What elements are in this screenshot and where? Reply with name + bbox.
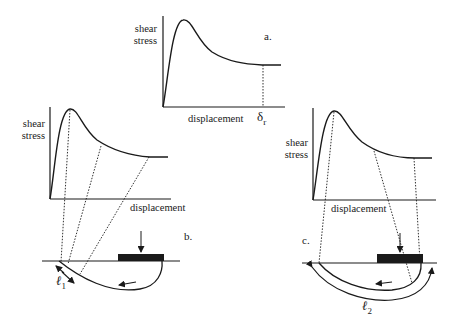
panel-c-projection-residual [414, 158, 420, 262]
diagram-canvas [0, 0, 459, 327]
panel-a-ylabel-line1: shear [117, 23, 157, 35]
panel-c-length-double-arrow [312, 267, 432, 300]
panel-b-length-arrow-up [56, 266, 64, 273]
panel-c-projection-peak [319, 112, 334, 263]
panel-c-ylabel: shear stress [268, 137, 308, 161]
ell-subscript: 1 [61, 281, 66, 291]
panel-c-ylabel-line1: shear [268, 137, 308, 149]
panel-c-stress-curve [313, 111, 432, 200]
panel-a-ylabel: shear stress [117, 23, 157, 47]
panel-a-xlabel: displacement [188, 113, 243, 125]
panel-c-tag: c. [302, 234, 310, 246]
panel-b-length-label: ℓ1 [56, 275, 66, 292]
panel-c-ylabel-line2: stress [268, 149, 308, 161]
panel-b-projection-peak [61, 110, 70, 262]
panel-a-residual-displacement-symbol: δr [257, 111, 266, 128]
panel-b-projection-mid [68, 146, 101, 264]
panel-c-movement-arrow [376, 282, 392, 284]
panel-c-length-label: ℓ2 [362, 300, 372, 317]
ell-subscript: 2 [367, 306, 372, 316]
panel-b-chart [50, 107, 171, 274]
panel-a-ylabel-line2: stress [117, 35, 157, 47]
panel-c-slope-model [302, 233, 437, 300]
delta-subscript: r [263, 117, 266, 127]
panel-b-movement-arrow [119, 282, 136, 285]
panel-b-ylabel-line1: shear [5, 118, 45, 130]
panel-b-load-block [118, 254, 164, 261]
panel-c-xlabel: displacement [331, 203, 386, 215]
panel-b-slip-surface [59, 261, 162, 290]
panel-b-ylabel-line2: stress [5, 130, 45, 142]
panel-c-load-block [377, 254, 423, 263]
panel-c-slip-surface [319, 263, 421, 290]
panel-b-tag: b. [184, 230, 192, 242]
panel-b-xlabel: displacement [130, 202, 185, 214]
shear-stress-displacement-figure: shear stress a. displacement δr shear st… [0, 0, 459, 327]
panel-b-stress-curve [50, 109, 168, 199]
panel-a-tag: a. [264, 30, 272, 42]
panel-b-ylabel: shear stress [5, 118, 45, 142]
